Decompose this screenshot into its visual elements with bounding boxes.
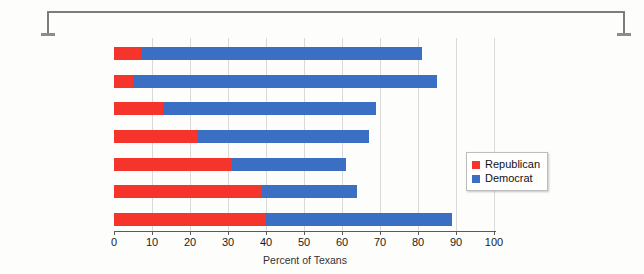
x-tick-mark [418,231,419,235]
bar-segment-republican [114,102,163,115]
x-tick-mark [266,231,267,235]
bar-row [114,185,494,198]
x-axis-line [114,231,496,232]
x-tick-label: 30 [222,236,234,248]
legend-swatch-democrat [472,175,480,183]
bar-segment-republican [114,130,198,143]
bar-segment-republican [114,158,232,171]
bar-row [114,130,494,143]
x-tick-mark [228,231,229,235]
x-tick-mark [114,231,115,235]
x-tick-mark [304,231,305,235]
x-tick-label: 20 [184,236,196,248]
legend-item-democrat: Democrat [472,172,540,185]
bar-segment-democrat [141,47,422,60]
bar-segment-democrat [266,213,452,226]
x-tick-mark [494,231,495,235]
x-tick-label: 80 [412,236,424,248]
x-axis-title: Percent of Texans [114,254,496,266]
caliper-bracket-arm-left [47,11,49,35]
bar-row [114,47,494,60]
gridline [494,38,495,231]
bar-row [114,75,494,88]
legend-swatch-republican [472,161,480,169]
bar-segment-republican [114,47,141,60]
bar-segment-democrat [232,158,346,171]
caliper-bracket-foot-left [41,33,55,36]
x-tick-label: 90 [450,236,462,248]
x-tick-mark [152,231,153,235]
bar-row [114,213,494,226]
x-tick-label: 10 [146,236,158,248]
x-tick-mark [380,231,381,235]
x-tick-label: 70 [374,236,386,248]
caliper-bracket-arm-right [623,11,625,35]
chart-legend: Republican Democrat [466,152,548,191]
bar-segment-democrat [163,102,376,115]
x-tick-label: 60 [336,236,348,248]
bar-row [114,102,494,115]
bar-row [114,158,494,171]
bar-segment-republican [114,75,133,88]
legend-label-democrat: Democrat [485,172,533,185]
x-tick-label: 50 [298,236,310,248]
legend-item-republican: Republican [472,158,540,171]
plot-area [114,38,494,231]
bar-segment-democrat [262,185,357,198]
bar-segment-republican [114,185,262,198]
caliper-bracket-rule [47,11,625,13]
x-tick-mark [342,231,343,235]
chart-figure: 0102030405060708090100 Percent of Texans… [0,0,644,274]
bar-segment-republican [114,213,266,226]
caliper-bracket-foot-right [617,33,631,36]
x-tick-mark [190,231,191,235]
bar-segment-democrat [198,130,369,143]
legend-label-republican: Republican [485,158,540,171]
x-tick-label: 40 [260,236,272,248]
x-tick-mark [456,231,457,235]
bar-segment-democrat [133,75,437,88]
x-tick-label: 0 [111,236,117,248]
x-tick-label: 100 [485,236,503,248]
